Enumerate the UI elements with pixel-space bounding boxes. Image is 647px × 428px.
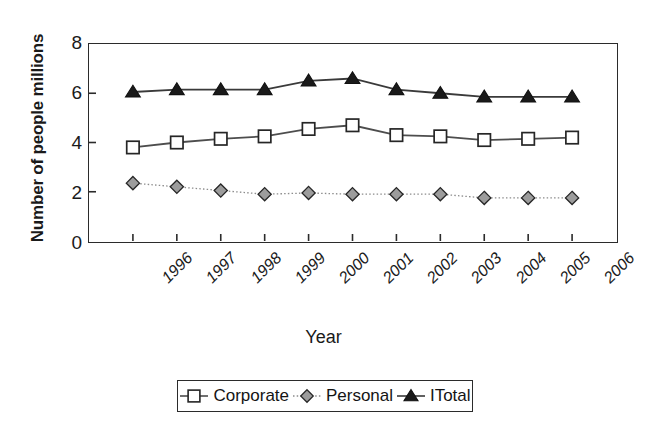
data-point-filled-diamond — [346, 188, 359, 201]
x-tick-label: 1998 — [247, 249, 285, 287]
x-axis-title: Year — [0, 327, 647, 348]
legend-marker-filled-triangle — [396, 386, 426, 406]
legend-marker-filled-diamond — [292, 386, 322, 406]
plot-area — [88, 43, 618, 243]
data-point-filled-diamond — [522, 191, 535, 204]
data-point-open-square — [215, 133, 227, 145]
data-point-filled-diamond — [214, 184, 227, 197]
y-tick-label: 4 — [60, 133, 82, 152]
legend-label: Personal — [326, 386, 393, 406]
data-point-filled-diamond — [126, 177, 139, 190]
y-tick-label: 6 — [60, 83, 82, 102]
data-point-filled-diamond — [170, 180, 183, 193]
data-point-filled-triangle — [345, 72, 360, 84]
data-point-filled-triangle — [404, 390, 418, 401]
legend-entry-corporate[interactable]: Corporate — [179, 386, 289, 406]
x-tick-label: 1999 — [291, 249, 329, 287]
x-tick-label: 2003 — [468, 249, 506, 287]
data-point-filled-diamond — [302, 186, 315, 199]
legend-entry-personal[interactable]: Personal — [292, 386, 393, 406]
data-point-filled-diamond — [478, 191, 491, 204]
chart-figure: Number of people millions 02468 19961997… — [0, 0, 647, 428]
chart-legend: CorporatePersonalITotal — [177, 380, 473, 412]
data-point-open-square — [522, 133, 534, 145]
y-axis-title: Number of people millions — [28, 18, 48, 258]
legend-label: ITotal — [430, 386, 471, 406]
data-point-open-square — [258, 130, 270, 142]
data-point-filled-diamond — [301, 390, 314, 403]
legend-entry-itotal[interactable]: ITotal — [396, 386, 471, 406]
x-tick-label: 2001 — [379, 249, 417, 287]
legend-label: Corporate — [213, 386, 289, 406]
data-point-open-square — [127, 141, 139, 153]
y-tick-label: 8 — [60, 33, 82, 52]
y-tick-label: 2 — [60, 183, 82, 202]
data-point-open-square — [189, 390, 201, 402]
x-tick-label: 2005 — [556, 249, 594, 287]
data-point-open-square — [390, 129, 402, 141]
x-tick-label: 2000 — [335, 249, 373, 287]
data-point-open-square — [478, 134, 490, 146]
data-point-filled-diamond — [390, 188, 403, 201]
y-tick-label: 0 — [60, 233, 82, 252]
series-canvas — [89, 44, 616, 241]
data-point-open-square — [302, 123, 314, 135]
data-point-open-square — [346, 119, 358, 131]
data-point-filled-diamond — [258, 188, 271, 201]
x-tick-label: 1996 — [159, 249, 197, 287]
data-point-open-square — [434, 130, 446, 142]
x-tick-label: 1997 — [203, 249, 241, 287]
data-point-open-square — [566, 131, 578, 143]
x-tick-label: 2006 — [600, 249, 638, 287]
data-point-filled-diamond — [565, 191, 578, 204]
data-point-open-square — [171, 136, 183, 148]
y-axis-tick-labels: 02468 — [50, 0, 82, 428]
x-tick-label: 2002 — [424, 249, 462, 287]
x-tick-label: 2004 — [512, 249, 550, 287]
data-point-filled-diamond — [434, 188, 447, 201]
legend-marker-open-square — [179, 386, 209, 406]
